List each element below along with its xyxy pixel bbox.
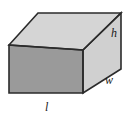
width-label: w <box>105 74 113 86</box>
box-diagram-figure: h w l <box>0 0 129 120</box>
height-label: h <box>111 27 117 39</box>
box-front-face <box>9 45 83 93</box>
rectangular-box-illustration <box>0 0 129 120</box>
length-label: l <box>45 101 48 113</box>
